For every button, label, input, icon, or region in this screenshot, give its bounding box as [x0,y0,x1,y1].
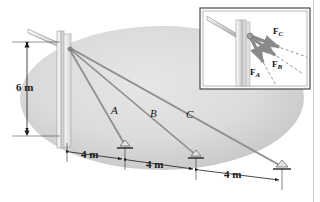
force-label-a: FA [250,67,260,79]
cable-label-c: C [186,108,193,120]
figure-canvas: 6 m 4 m 4 m 4 m A B C FC FB FA [0,0,320,202]
force-label-b: FB [272,59,282,71]
ground-dimension-label-1: 4 m [81,148,98,160]
force-label-c: FC [273,26,283,38]
cable-label-a: A [111,104,118,116]
ground-dimension-label-3: 4 m [224,168,241,180]
height-dimension-label: 6 m [16,81,33,93]
anchor-c [273,160,291,169]
figure-svg [0,0,320,202]
force-subscript-a: A [256,71,261,79]
cable-label-b: B [150,107,157,119]
ground-dimension-label-2: 4 m [146,158,163,170]
force-subscript-b: B [278,63,283,71]
force-subscript-c: C [279,30,284,38]
